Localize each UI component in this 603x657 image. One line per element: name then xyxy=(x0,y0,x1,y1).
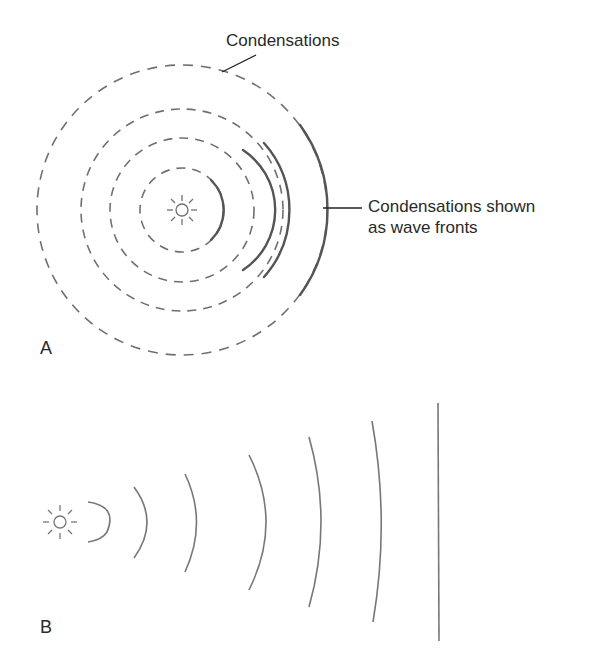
wave-arc-5 xyxy=(309,437,321,607)
condensation-circle-3 xyxy=(81,109,283,311)
diagram-b xyxy=(88,403,439,641)
panel-label-b: B xyxy=(40,617,52,638)
wave-front-arc-3 xyxy=(264,143,289,277)
wave-front-arc-2 xyxy=(243,150,275,270)
label-wave-fronts-line1: Condensations shown xyxy=(368,196,535,217)
label-condensations: Condensations xyxy=(226,30,339,51)
wave-front-arc-4 xyxy=(300,125,328,295)
condensation-circle-2 xyxy=(110,138,254,282)
panel-label-a: A xyxy=(40,338,52,359)
wave-front-arc-1 xyxy=(211,180,224,240)
wave-arc-2 xyxy=(134,487,147,558)
label-wave-fronts-line2: as wave fronts xyxy=(368,217,478,238)
wave-arc-6 xyxy=(372,421,381,622)
sound-source-icon xyxy=(43,505,77,539)
wave-arc-3 xyxy=(185,474,197,572)
diagram-a xyxy=(37,65,327,355)
plane-wave-front xyxy=(438,403,439,641)
callout-leader-top xyxy=(222,55,256,72)
wave-diagram-canvas xyxy=(0,0,603,657)
wave-arc-4 xyxy=(249,455,266,590)
sound-source-icon xyxy=(167,195,197,225)
wave-arc-1 xyxy=(88,502,110,542)
wave-fronts-a xyxy=(211,125,328,295)
